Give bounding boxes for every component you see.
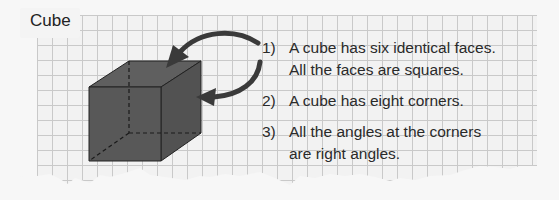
fact-text-line: are right angles. <box>289 143 542 165</box>
facts-list: 1) A cube has six identical faces. All t… <box>262 37 542 174</box>
fact-item: 1) A cube has six identical faces. All t… <box>262 37 542 81</box>
fact-text-line: All the faces are squares. <box>289 59 542 81</box>
cube-icon <box>89 61 201 161</box>
fact-item: 3) All the angles at the corners are rig… <box>262 121 542 165</box>
arrow-right-face-icon <box>196 62 260 106</box>
fact-text-line: All the angles at the corners <box>289 121 542 143</box>
fact-number: 2) <box>262 90 276 112</box>
fact-text-line: A cube has six identical faces. <box>289 37 542 59</box>
fact-text-line: A cube has eight corners. <box>289 90 542 112</box>
fact-item: 2) A cube has eight corners. <box>262 90 542 112</box>
fact-number: 3) <box>262 121 276 143</box>
fact-number: 1) <box>262 37 276 59</box>
